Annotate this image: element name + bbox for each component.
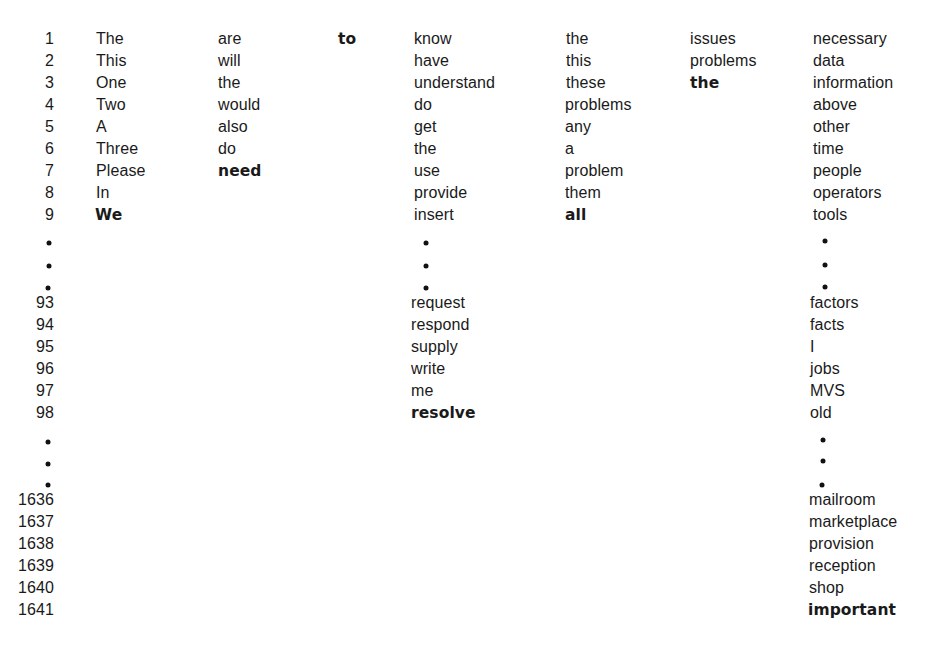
word-cell: marketplace <box>809 512 897 532</box>
row-index: 1639 <box>0 556 54 576</box>
ellipsis-dot <box>46 483 51 488</box>
word-cell: insert <box>414 205 454 225</box>
word-cell: do <box>218 139 236 159</box>
row-index: 5 <box>0 117 54 137</box>
word-cell: problem <box>565 161 624 181</box>
word-cell: provide <box>414 183 467 203</box>
word-cell: get <box>414 117 437 137</box>
word-cell: A <box>96 117 107 137</box>
word-cell: shop <box>809 578 844 598</box>
row-index: 98 <box>0 403 54 423</box>
word-cell: Please <box>96 161 146 181</box>
word-cell: above <box>813 95 857 115</box>
word-cell: will <box>218 51 241 71</box>
row-index: 3 <box>0 73 54 93</box>
ellipsis-dot <box>823 263 828 268</box>
word-cell: write <box>411 359 445 379</box>
word-cell: the <box>218 73 241 93</box>
word-cell: data <box>813 51 845 71</box>
row-index: 7 <box>0 161 54 181</box>
ellipsis-dot <box>46 440 51 445</box>
selected-word-cell: the <box>690 73 719 93</box>
ellipsis-dot <box>821 438 826 443</box>
word-cell: these <box>566 73 606 93</box>
word-cell: understand <box>414 73 495 93</box>
word-table-figure: 1 2 3 4 5 6 7 8 9 93 94 95 96 97 98 1636… <box>0 0 949 663</box>
row-index: 4 <box>0 95 54 115</box>
ellipsis-dot <box>47 264 52 269</box>
row-index: 96 <box>0 359 54 379</box>
ellipsis-dot <box>46 462 51 467</box>
word-cell: old <box>810 403 832 423</box>
row-index: 1640 <box>0 578 54 598</box>
row-index: 9 <box>0 205 54 225</box>
word-cell: necessary <box>813 29 887 49</box>
word-cell: time <box>813 139 844 159</box>
word-cell: operators <box>813 183 882 203</box>
word-cell: This <box>96 51 127 71</box>
word-cell: provision <box>809 534 874 554</box>
selected-word-cell: resolve <box>411 403 476 423</box>
word-cell: do <box>414 95 432 115</box>
word-cell: reception <box>809 556 876 576</box>
word-cell: them <box>565 183 601 203</box>
word-cell: MVS <box>810 381 845 401</box>
row-index: 94 <box>0 315 54 335</box>
word-cell: the <box>566 29 589 49</box>
word-cell: me <box>411 381 433 401</box>
word-cell: tools <box>813 205 847 225</box>
row-index: 1638 <box>0 534 54 554</box>
row-index: 1637 <box>0 512 54 532</box>
word-cell: problems <box>690 51 757 71</box>
word-cell: information <box>813 73 893 93</box>
row-index: 1 <box>0 29 54 49</box>
word-cell: the <box>414 139 437 159</box>
row-index: 93 <box>0 293 54 313</box>
word-cell: have <box>414 51 449 71</box>
ellipsis-dot <box>424 286 429 291</box>
ellipsis-dot <box>424 241 429 246</box>
row-index: 2 <box>0 51 54 71</box>
ellipsis-dot <box>424 264 429 269</box>
row-index: 8 <box>0 183 54 203</box>
word-cell: issues <box>690 29 736 49</box>
selected-word-cell: all <box>565 205 586 225</box>
word-cell: use <box>414 161 440 181</box>
word-cell: In <box>96 183 110 203</box>
row-index: 1636 <box>0 490 54 510</box>
word-cell: I <box>810 337 815 357</box>
selected-word-cell: need <box>218 161 262 181</box>
word-cell: know <box>414 29 452 49</box>
selected-word-cell: important <box>808 600 896 620</box>
selected-word-cell: to <box>338 29 356 49</box>
ellipsis-dot <box>823 239 828 244</box>
word-cell: also <box>218 117 248 137</box>
word-cell: problems <box>565 95 632 115</box>
word-cell: respond <box>411 315 470 335</box>
row-index: 1641 <box>0 600 54 620</box>
word-cell: any <box>565 117 591 137</box>
word-cell: people <box>813 161 862 181</box>
selected-word-cell: We <box>95 205 122 225</box>
ellipsis-dot <box>46 286 51 291</box>
word-cell: this <box>566 51 591 71</box>
word-cell: Two <box>96 95 126 115</box>
word-cell: factors <box>810 293 859 313</box>
word-cell: request <box>411 293 465 313</box>
word-cell: supply <box>411 337 458 357</box>
word-cell: mailroom <box>809 490 876 510</box>
ellipsis-dot <box>47 241 52 246</box>
ellipsis-dot <box>821 459 826 464</box>
row-index: 95 <box>0 337 54 357</box>
word-cell: other <box>813 117 850 137</box>
word-cell: are <box>218 29 241 49</box>
word-cell: One <box>96 73 127 93</box>
word-cell: a <box>565 139 574 159</box>
word-cell: The <box>96 29 124 49</box>
row-index: 97 <box>0 381 54 401</box>
word-cell: Three <box>96 139 138 159</box>
word-cell: facts <box>810 315 844 335</box>
word-cell: jobs <box>810 359 840 379</box>
row-index: 6 <box>0 139 54 159</box>
ellipsis-dot <box>820 483 825 488</box>
